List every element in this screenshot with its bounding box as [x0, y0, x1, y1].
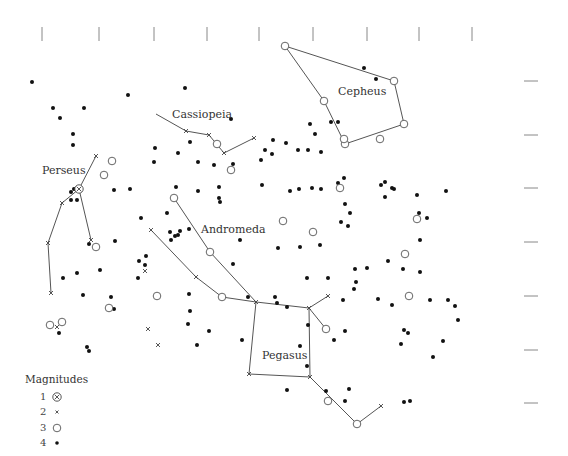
star-mag3 [153, 292, 161, 300]
star-mag4 [69, 198, 73, 202]
star-mag4 [231, 162, 235, 166]
star-mag4 [319, 187, 323, 191]
star-mag3 [340, 135, 348, 143]
star-mag4 [446, 298, 450, 302]
legend-x-icon [56, 411, 59, 414]
star-mag2 [379, 404, 383, 408]
constellation-line-perseus [79, 189, 91, 240]
star-mag4 [406, 331, 410, 335]
star-mag4 [313, 132, 317, 136]
star-mag4 [75, 271, 79, 275]
star-mag2 [143, 269, 147, 273]
star-mag4 [417, 211, 421, 215]
star-mag4 [153, 146, 157, 150]
star-mag4 [336, 120, 340, 124]
star-mag3 [324, 397, 332, 405]
star-mag4 [418, 270, 422, 274]
star-mag4 [176, 233, 180, 237]
star-mag3 [218, 293, 226, 301]
star-mag2 [156, 343, 160, 347]
star-mag4 [71, 143, 75, 147]
star-mag4 [71, 132, 75, 136]
star-mag4 [390, 303, 394, 307]
star-mag4 [271, 138, 275, 142]
star-mag4 [318, 243, 322, 247]
label-pegasus: Pegasus [262, 349, 308, 362]
star-mag4 [285, 305, 289, 309]
star-mag2 [149, 228, 153, 232]
legend-num-3: 3 [40, 422, 46, 433]
legend-title: Magnitudes [25, 373, 88, 385]
star-mag4 [82, 106, 86, 110]
star-mag4 [187, 292, 191, 296]
star-mag4 [85, 345, 89, 349]
star-mag4 [168, 230, 172, 234]
star-mag2 [222, 151, 226, 155]
star-mag4 [365, 266, 369, 270]
star-mag4 [285, 388, 289, 392]
star-mag4 [112, 188, 116, 192]
star-mag4 [348, 211, 352, 215]
star-mag3 [281, 42, 289, 50]
star-mag4 [98, 268, 102, 272]
label-andromeda: Andromeda [200, 223, 266, 236]
star-mag4 [425, 216, 429, 220]
star-mag4 [240, 338, 244, 342]
star-mag3 [108, 157, 116, 165]
star-mag4 [399, 342, 403, 346]
star-mag4 [308, 122, 312, 126]
star-mag4 [343, 399, 347, 403]
star-mag4 [218, 200, 222, 204]
star-mag4 [402, 400, 406, 404]
star-mag3 [401, 250, 409, 258]
star-mag4 [126, 93, 130, 97]
star-mag4 [354, 280, 358, 284]
star-mag4 [58, 116, 62, 120]
star-mag4 [69, 190, 73, 194]
star-mag4 [187, 227, 191, 231]
star-mag3 [309, 228, 317, 236]
star-mag4 [169, 238, 173, 242]
legend-circled-x-icon [53, 393, 61, 401]
star-mag4 [418, 238, 422, 242]
star-mag4 [288, 189, 292, 193]
legend-dot-icon [55, 441, 59, 445]
star-mag4 [392, 187, 396, 191]
star-mag4 [143, 263, 147, 267]
star-mag4 [87, 242, 91, 246]
top-tick-marks [42, 27, 472, 41]
constellation-line-pegasus [249, 302, 310, 377]
star-mag4 [176, 151, 180, 155]
star-mag4 [87, 349, 91, 353]
star-mag4 [284, 141, 288, 145]
star-mag4 [326, 276, 330, 280]
star-mag4 [343, 329, 347, 333]
star-mag2 [194, 275, 198, 279]
star-mag4 [332, 338, 336, 342]
star-mag4 [57, 331, 61, 335]
star-mag4 [61, 276, 65, 280]
star-mag3 [413, 215, 421, 223]
star-mag4 [276, 246, 280, 250]
star-mag4 [298, 245, 302, 249]
star-mag4 [217, 196, 221, 200]
star-mag4 [186, 322, 190, 326]
star-mag3 [336, 184, 344, 192]
star-mag4 [319, 150, 323, 154]
star-mag4 [343, 202, 347, 206]
star-mag3 [400, 120, 408, 128]
star-mag3 [227, 166, 235, 174]
label-perseus: Perseus [42, 164, 86, 177]
star-mag4 [402, 328, 406, 332]
star-mag2 [326, 294, 330, 298]
star-mag3 [46, 321, 54, 329]
star-mag4 [196, 160, 200, 164]
star-mag4 [379, 183, 383, 187]
star-mag4 [415, 193, 419, 197]
star-mag3 [206, 248, 214, 256]
star-mag4 [260, 183, 264, 187]
star-mag4 [51, 106, 55, 110]
star-mag4 [456, 318, 460, 322]
star-mag4 [207, 329, 211, 333]
star-mag2 [252, 136, 256, 140]
